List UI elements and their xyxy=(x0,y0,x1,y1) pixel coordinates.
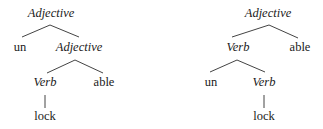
edge-left-adj-able xyxy=(75,60,103,73)
right-root-adjective: Adjective xyxy=(245,7,292,19)
right-verb: Verb xyxy=(227,41,250,53)
left-lock: lock xyxy=(34,110,56,122)
left-able: able xyxy=(94,76,115,88)
edge-left-root-un xyxy=(22,25,50,37)
right-able: able xyxy=(290,41,311,53)
edge-right-verb-un xyxy=(210,60,237,72)
edge-right-root-verb xyxy=(232,25,269,37)
edge-left-root-adj xyxy=(50,25,79,37)
left-root-adjective: Adjective xyxy=(28,7,75,19)
edge-right-verb-verb xyxy=(237,60,265,72)
right-verb-inner: Verb xyxy=(253,76,276,88)
edge-left-adj-verb xyxy=(47,60,75,73)
edge-right-root-able xyxy=(269,25,298,38)
left-un: un xyxy=(14,41,27,53)
right-un: un xyxy=(205,76,218,88)
left-adjective: Adjective xyxy=(56,41,103,53)
right-lock: lock xyxy=(253,110,275,122)
left-verb: Verb xyxy=(34,76,57,88)
